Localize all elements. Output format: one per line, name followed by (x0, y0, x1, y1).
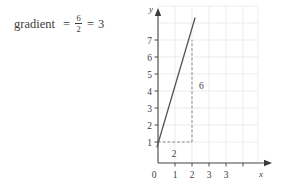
fraction-six-over-two: 6 2 (75, 14, 82, 34)
fraction-numerator: 6 (75, 14, 81, 23)
x-tick-label-1: 1 (173, 170, 178, 180)
y-tick-label-5: 5 (147, 70, 152, 80)
run-annotation-label: 2 (172, 149, 177, 159)
y-tick-label-7: 7 (147, 36, 152, 46)
gradient-result: 3 (98, 18, 104, 31)
y-tick-label-3: 3 (147, 104, 152, 114)
x-tick-label-4: 3 (224, 170, 229, 180)
line-graph: 1 2 3 4 5 6 7 0 1 2 3 3 y x 6 2 (140, 0, 282, 184)
equals-sign-1: = (63, 18, 70, 31)
grid-lines (158, 6, 258, 163)
x-tick-label-2: 2 (190, 170, 195, 180)
gradient-word: gradient (14, 18, 55, 31)
x-tick-label-0: 0 (152, 170, 157, 180)
rise-annotation-label: 6 (199, 81, 204, 91)
x-tick-label-3: 3 (207, 170, 212, 180)
fraction-denominator: 2 (75, 25, 81, 34)
y-tick-label-6: 6 (147, 53, 152, 63)
equals-sign-2: = (87, 18, 94, 31)
plotted-line (157, 18, 195, 147)
y-axis (155, 8, 161, 163)
figure-gradient-example: gradient = 6 2 = 3 (0, 0, 282, 184)
x-axis-label: x (258, 169, 263, 179)
gradient-equation: gradient = 6 2 = 3 (14, 14, 104, 34)
y-axis-label: y (148, 4, 153, 14)
y-tick-label-2: 2 (147, 121, 152, 131)
y-tick-label-4: 4 (147, 87, 152, 97)
y-tick-label-1: 1 (147, 138, 152, 148)
